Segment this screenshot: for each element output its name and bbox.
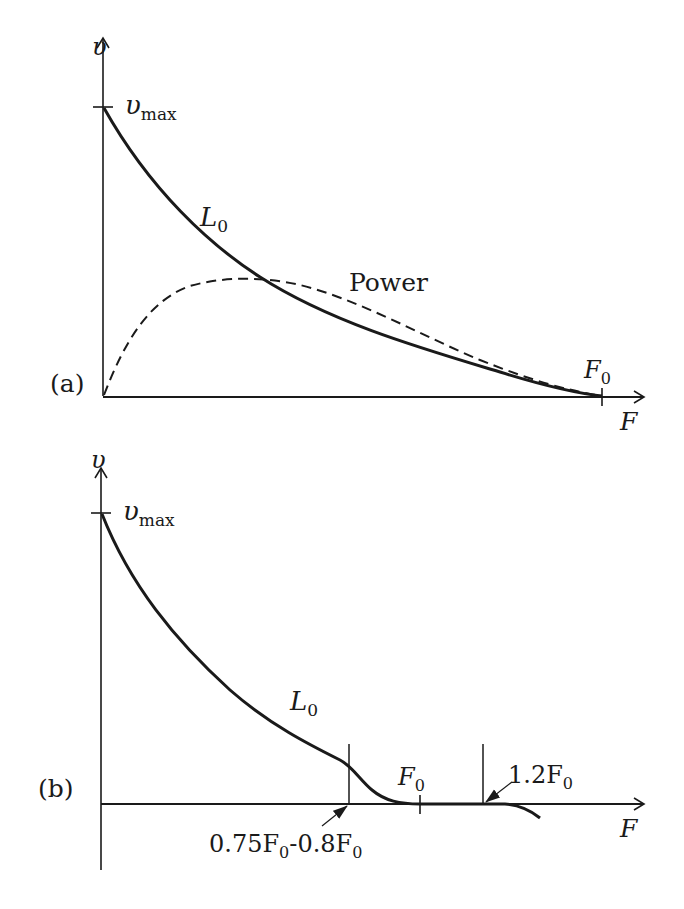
panel-b-y-axis-label: υ — [91, 446, 106, 474]
force-velocity-figure: υ υmax L0 Power F0 F (a) υ υmax L0 — [0, 0, 684, 909]
panel-b-label: (b) — [38, 774, 74, 803]
panel-a-power-label: Power — [349, 268, 428, 297]
panel-a-label: (a) — [50, 369, 84, 398]
panel-a-y-axis-label: υ — [92, 33, 107, 61]
panel-a-x-axis-label: F — [619, 407, 639, 436]
panel-b-x-axis-label: F — [619, 814, 639, 843]
